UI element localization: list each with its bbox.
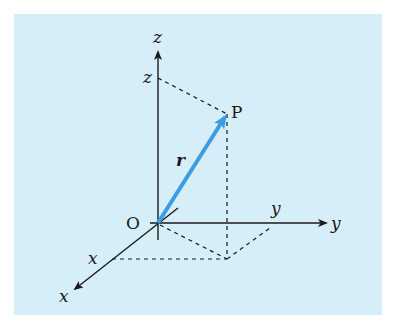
y-projection-line [227,228,270,259]
z-projection-line [158,78,227,114]
position-vector-diagram: z z P r O y y x x [0,0,396,334]
y-axis-label: y [330,213,341,233]
vector-r-label: r [176,150,186,170]
origin-to-foot-line [160,225,227,259]
axes [75,52,326,289]
z-coordinate-label: z [142,67,153,87]
z-axis-label: z [152,27,163,47]
x-axis-label: x [59,286,69,306]
x-coordinate-label: x [88,248,98,268]
position-vector-r [158,117,225,223]
point-p-label: P [231,102,242,122]
y-coordinate-label: y [270,198,281,218]
origin-label: O [126,213,140,233]
